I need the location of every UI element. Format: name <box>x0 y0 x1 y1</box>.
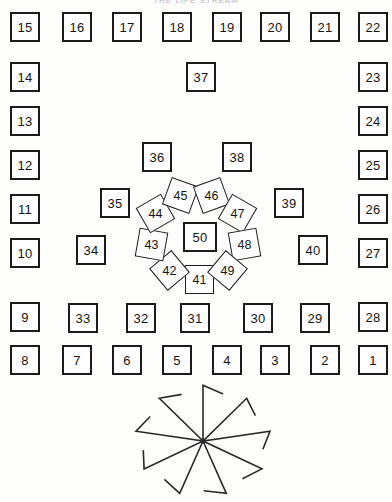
cell-2[interactable]: 2 <box>310 345 340 375</box>
cell-label: 18 <box>169 21 184 34</box>
cell-36[interactable]: 36 <box>142 142 172 172</box>
cell-15[interactable]: 15 <box>10 12 40 42</box>
cell-label: 37 <box>193 71 208 84</box>
cell-3[interactable]: 3 <box>260 345 290 375</box>
cell-label: 16 <box>69 21 84 34</box>
cell-label: 8 <box>21 354 29 367</box>
pinwheel-spoke-8 <box>136 417 203 441</box>
cell-29[interactable]: 29 <box>300 303 330 333</box>
pinwheel-figure <box>118 378 288 502</box>
petal-cell-label: 43 <box>138 231 165 258</box>
cell-39[interactable]: 39 <box>274 188 304 218</box>
cell-label: 31 <box>187 312 202 325</box>
cell-25[interactable]: 25 <box>358 150 388 180</box>
cell-38[interactable]: 38 <box>222 142 252 172</box>
cell-label: 4 <box>223 354 231 367</box>
cell-label: 36 <box>149 151 164 164</box>
cell-37[interactable]: 37 <box>186 62 216 92</box>
petal-cell-43[interactable]: 43 <box>135 228 169 262</box>
cell-label: 22 <box>365 21 380 34</box>
center-cell-50[interactable]: 50 <box>183 222 217 252</box>
cell-20[interactable]: 20 <box>260 12 290 42</box>
petal-cell-45[interactable]: 45 <box>162 177 199 214</box>
cell-23[interactable]: 23 <box>358 62 388 92</box>
cell-8[interactable]: 8 <box>10 345 40 375</box>
cell-label: 32 <box>133 312 148 325</box>
cell-13[interactable]: 13 <box>10 106 40 136</box>
cell-17[interactable]: 17 <box>112 12 142 42</box>
cell-label: 24 <box>365 115 380 128</box>
cell-label: 14 <box>17 71 32 84</box>
cell-14[interactable]: 14 <box>10 62 40 92</box>
cell-label: 15 <box>17 21 32 34</box>
cell-35[interactable]: 35 <box>100 188 130 218</box>
cell-label: 27 <box>365 247 380 260</box>
cell-label: 5 <box>173 354 181 367</box>
cell-label: 9 <box>21 311 29 324</box>
pinwheel-hub <box>200 438 205 443</box>
petal-cell-label: 46 <box>198 182 225 209</box>
cell-label: 20 <box>267 21 282 34</box>
cell-24[interactable]: 24 <box>358 106 388 136</box>
petal-cell-47[interactable]: 47 <box>218 194 258 234</box>
cell-33[interactable]: 33 <box>68 303 98 333</box>
center-cell-label: 50 <box>192 231 207 244</box>
cell-16[interactable]: 16 <box>62 12 92 42</box>
cell-4[interactable]: 4 <box>212 345 242 375</box>
pinwheel-svg <box>118 378 288 502</box>
cell-label: 25 <box>365 159 380 172</box>
cell-label: 1 <box>369 354 377 367</box>
petal-cell-label: 42 <box>156 257 183 284</box>
cell-19[interactable]: 19 <box>212 12 242 42</box>
cell-9[interactable]: 9 <box>10 302 40 332</box>
pinwheel-spoke-7 <box>143 441 203 469</box>
petal-cell-label: 47 <box>224 200 251 227</box>
cell-label: 11 <box>18 203 32 216</box>
cell-label: 38 <box>229 151 244 164</box>
cell-label: 28 <box>365 311 380 324</box>
cell-12[interactable]: 12 <box>10 150 40 180</box>
cell-label: 39 <box>281 197 296 210</box>
cell-label: 6 <box>123 354 131 367</box>
cell-label: 21 <box>317 21 332 34</box>
cell-34[interactable]: 34 <box>76 235 106 265</box>
cell-27[interactable]: 27 <box>358 238 388 268</box>
petal-cell-label: 45 <box>167 182 194 209</box>
cell-label: 33 <box>75 312 90 325</box>
petal-cell-label: 48 <box>231 231 258 258</box>
cell-label: 2 <box>321 354 329 367</box>
cell-label: 30 <box>250 312 265 325</box>
cell-1[interactable]: 1 <box>358 345 388 375</box>
cell-30[interactable]: 30 <box>243 303 273 333</box>
pinwheel-spoke-9 <box>159 395 203 442</box>
page-caption: THE LIFE STREAM <box>0 0 392 3</box>
cell-label: 40 <box>305 244 320 257</box>
cell-28[interactable]: 28 <box>358 302 388 332</box>
cell-label: 10 <box>17 247 32 260</box>
cell-label: 7 <box>73 354 81 367</box>
cell-label: 19 <box>219 21 234 34</box>
cell-6[interactable]: 6 <box>112 345 142 375</box>
cell-label: 34 <box>83 244 98 257</box>
cell-label: 26 <box>365 203 380 216</box>
cell-32[interactable]: 32 <box>126 303 156 333</box>
cell-18[interactable]: 18 <box>162 12 192 42</box>
cell-22[interactable]: 22 <box>358 12 388 42</box>
cell-label: 3 <box>271 354 279 367</box>
cell-label: 13 <box>17 115 32 128</box>
cell-10[interactable]: 10 <box>10 238 40 268</box>
pinwheel-spoke-5 <box>203 441 226 493</box>
diagram-canvas: THE LIFE STREAM 151617181920212214131211… <box>0 0 392 502</box>
pinwheel-spoke-6 <box>165 441 203 493</box>
cell-21[interactable]: 21 <box>310 12 340 42</box>
cell-label: 23 <box>365 71 380 84</box>
cell-label: 12 <box>17 159 32 172</box>
cell-31[interactable]: 31 <box>180 303 210 333</box>
petal-cell-label: 49 <box>214 257 241 284</box>
cell-5[interactable]: 5 <box>162 345 192 375</box>
cell-label: 29 <box>307 312 322 325</box>
cell-7[interactable]: 7 <box>62 345 92 375</box>
cell-26[interactable]: 26 <box>358 194 388 224</box>
cell-11[interactable]: 11 <box>10 194 40 224</box>
cell-40[interactable]: 40 <box>298 235 328 265</box>
